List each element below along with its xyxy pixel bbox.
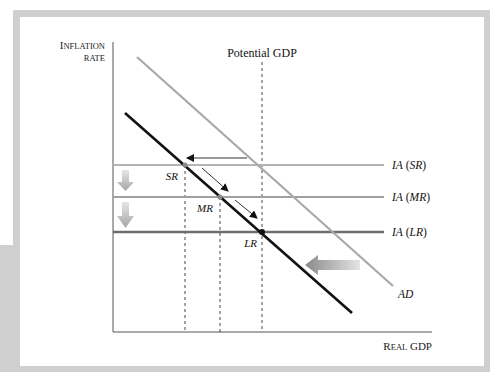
x-axis-label: REAL GDP [383,340,432,352]
sr-label: SR [166,170,179,182]
sr-point [183,163,188,168]
y-axis-label: INFLATION [60,39,105,51]
mr-point [218,195,223,200]
ia-lr-label: IA (LR) [391,226,427,239]
ia-sr-label: IA (SR) [391,159,426,172]
figure: INFLATION RATE Potential GDP SR MR LR IA… [0,0,498,381]
y-axis-label-line2: RATE [84,53,105,63]
lr-point [259,229,265,235]
lr-label: LR [243,237,257,249]
mr-label: MR [196,202,213,214]
ad-label: AD [397,288,414,300]
ia-mr-label: IA (MR) [391,191,430,204]
potential-gdp-label: Potential GDP [227,46,297,60]
